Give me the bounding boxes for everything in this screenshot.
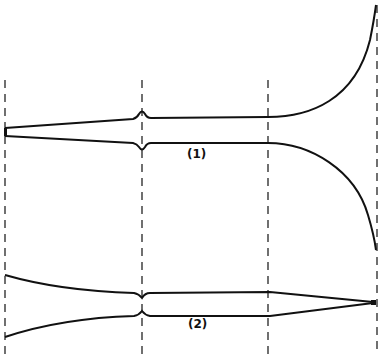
profile-1-label: (1) [187, 147, 206, 161]
profile-2-upper [5, 275, 373, 302]
profile-1-upper [5, 5, 376, 128]
diagram: (1) (2) [0, 0, 380, 362]
profile-2-right-cap [371, 300, 376, 305]
diagram-svg [0, 0, 380, 362]
profile-2-label: (2) [188, 317, 207, 331]
profile-1-left-cap [4, 128, 7, 136]
